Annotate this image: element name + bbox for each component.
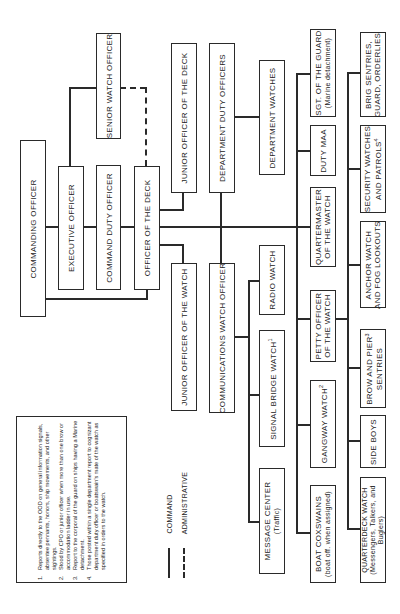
line-ood-joow-v — [182, 244, 184, 263]
node-label: GANGWAY WATCH2 — [317, 385, 329, 464]
node-label: QUARTERMASTEROF THE WATCH — [314, 189, 332, 265]
node-label: SECURITY WATCHESAND PATROLS4 — [363, 126, 384, 212]
dash-swo-ood-v — [145, 87, 147, 166]
legend-administrative-line — [183, 548, 185, 578]
node-anchor-watch: ANCHOR WATCHAND FOG LOOKOUTS — [360, 221, 386, 308]
line-colB-spine — [248, 280, 250, 523]
node-commanding-officer: COMMANDING OFFICER — [20, 140, 46, 317]
node-duty-maa: DUTY MAA — [310, 125, 336, 176]
node-label: SGT. OF THE GUARD(Marine detachment) — [314, 30, 332, 115]
node-label: QUARTERDECK WATCH(Messengers, Talkers, a… — [361, 485, 385, 574]
line-colB-signal — [248, 394, 259, 396]
node-quarterdeck-watch: QUARTERDECK WATCH(Messengers, Talkers, a… — [360, 477, 386, 583]
node-label: MESSAGE CENTER(Traffic) — [263, 482, 281, 561]
line-ddo-dw — [234, 116, 259, 118]
node-label: OFFICER OF THE DECK — [143, 180, 152, 277]
line-colD-brig — [347, 72, 360, 74]
node-label: BOAT COXSWAINS(boat off. when assigned) — [314, 491, 332, 577]
node-label: COMMAND DUTY OFFICER — [104, 173, 113, 282]
node-command-duty-officer: COMMAND DUTY OFFICER — [96, 165, 121, 290]
line-colB-message — [248, 521, 259, 523]
dash-swo-ood-h — [120, 87, 146, 89]
footnotes-box: 1.Reports directly to the OOD on general… — [16, 416, 127, 583]
node-boat-coxswains: BOAT COXSWAINS(boat off. when assigned) — [310, 485, 336, 583]
node-label: DUTY MAA — [319, 129, 328, 173]
footnote-3: 3.Report to the corporal of the guard on… — [72, 420, 86, 580]
node-label: DEPARTMENT DUTY OFFICERS — [218, 54, 227, 182]
line-colC-sgt — [296, 73, 310, 75]
node-label: RADIO WATCH — [268, 250, 277, 309]
line-cdo-ood — [120, 226, 134, 228]
node-senior-watch-officer: SENIOR WATCH OFFICER — [96, 33, 121, 139]
legend-command-line — [168, 548, 170, 578]
line-xo-cdo — [83, 226, 96, 228]
line-colD-quarterdeck — [347, 528, 360, 530]
node-label: BRIG SENTRIES,GUARD, ORDERLIES — [364, 32, 382, 116]
line-ood-jood-h — [159, 209, 183, 211]
line-co-ood-bottom-v — [146, 290, 148, 300]
line-cwo-colB — [234, 336, 249, 338]
line-colD-sideboys — [347, 440, 360, 442]
node-sgt-of-the-guard: SGT. OF THE GUARD(Marine detachment) — [310, 29, 336, 117]
line-ood-joow-h — [159, 244, 183, 246]
node-side-boys: SIDE BOYS — [360, 415, 386, 468]
node-label: COMMANDING OFFICER — [29, 179, 38, 278]
line-colC-gangway — [296, 424, 310, 426]
line-colC-spine — [296, 73, 298, 534]
node-quartermaster-of-the-watch: QUARTERMASTEROF THE WATCH — [310, 187, 336, 267]
node-label: PETTY OFFICEROF THE WATCH — [314, 293, 332, 360]
line-colC-poow — [296, 318, 310, 320]
line-colD-security — [347, 168, 360, 170]
node-junior-officer-of-the-watch: JUNIOR OFFICER OF THE WATCH — [171, 263, 197, 411]
line-colD-spine — [347, 72, 349, 530]
node-executive-officer: EXECUTIVE OFFICER — [58, 166, 84, 290]
node-radio-watch: RADIO WATCH — [259, 245, 285, 315]
node-brig-sentries: BRIG SENTRIES,GUARD, ORDERLIES — [360, 32, 386, 117]
line-colB-radio — [248, 280, 259, 282]
node-label: ANCHOR WATCHAND FOG LOOKOUTS — [364, 221, 382, 309]
node-label: SIGNAL BRIDGE WATCH1 — [266, 338, 278, 440]
node-officer-of-the-deck: OFFICER OF THE DECK — [134, 166, 160, 290]
node-signal-bridge-watch: SIGNAL BRIDGE WATCH1 — [259, 330, 285, 447]
footnote-1: 1.Reports directly to the OOD on general… — [37, 420, 58, 580]
node-label: JUNIOR OFFICER OF THE WATCH — [180, 268, 189, 405]
line-ood-jood-v — [182, 192, 184, 211]
line-xo-swo-h — [69, 87, 96, 89]
line-co-ood-bottom-h — [45, 298, 147, 300]
line-co-xo — [45, 226, 58, 228]
line-colC-qm — [296, 226, 310, 228]
node-gangway-watch: GANGWAY WATCH2 — [310, 380, 336, 468]
node-label: JUNIOR OFFICER OF THE DECK — [180, 53, 189, 184]
node-message-center: MESSAGE CENTER(Traffic) — [259, 468, 285, 574]
node-junior-officer-of-the-deck: JUNIOR OFFICER OF THE DECK — [171, 43, 197, 193]
node-department-watches: DEPARTMENT WATCHES — [259, 60, 285, 175]
node-department-duty-officers: DEPARTMENT DUTY OFFICERS — [209, 43, 235, 193]
line-colC-maa — [296, 150, 310, 152]
node-security-watches: SECURITY WATCHESAND PATROLS4 — [360, 125, 386, 213]
node-communications-watch-officer: COMMUNICATIONS WATCH OFFICER — [209, 263, 235, 413]
line-ddo-cwo-v — [220, 192, 222, 263]
footnote-4: 4.Those posted within a single departmen… — [86, 420, 107, 580]
footnote-2: 2.Stood by CPO or junior officer when mo… — [58, 420, 72, 580]
line-xo-swo-v — [69, 87, 71, 166]
node-label: EXECUTIVE OFFICER — [67, 184, 76, 272]
node-label: COMMUNICATIONS WATCH OFFICER — [218, 263, 227, 413]
node-label: BROW AND PIER3SENTRIES — [363, 333, 384, 405]
node-label: DEPARTMENT WATCHES — [268, 67, 277, 168]
line-colD-anchor — [347, 264, 360, 266]
node-brow-and-pier-sentries: BROW AND PIER3SENTRIES — [360, 329, 386, 408]
line-colC-boat — [296, 532, 310, 534]
line-colD-brow — [347, 367, 360, 369]
node-petty-officer-of-the-watch: PETTY OFFICEROF THE WATCH — [310, 290, 336, 362]
line-main-spine — [159, 226, 298, 228]
node-label: SENIOR WATCH OFFICER — [104, 34, 113, 139]
node-label: SIDE BOYS — [369, 419, 378, 465]
